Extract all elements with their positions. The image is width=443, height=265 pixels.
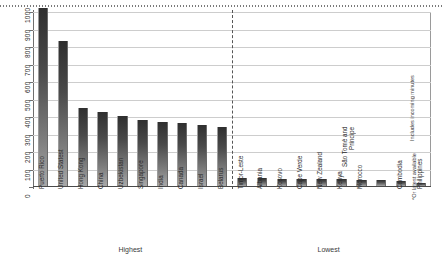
x-axis-category-label: Puerto Rico — [39, 156, 46, 189]
group-label: Lowest — [318, 246, 340, 253]
x-axis-category-label: Israel — [198, 174, 205, 189]
x-axis-category-label: Hong Kong — [79, 157, 86, 189]
x-axis-category-label: United Statest — [59, 149, 66, 189]
top-dotted-rule — [0, 5, 443, 7]
y-axis-tick — [29, 100, 33, 101]
x-axis-category-label: New Zealand — [318, 152, 325, 189]
x-axis-category-label: Philippines — [417, 159, 424, 189]
x-axis-category-label: Cape Verde — [298, 156, 305, 189]
bar-chart-figure: 01002003004005006007008009001000 Puerto … — [0, 0, 443, 265]
y-axis-tick — [29, 187, 33, 188]
y-axis-tick — [29, 12, 33, 13]
x-axis-category-label: Singapore — [138, 160, 145, 189]
y-axis-labels: 01002003004005006007008009001000 — [0, 12, 31, 187]
x-axis-category-label: Kosovo — [278, 168, 285, 189]
y-axis-tick — [29, 47, 33, 48]
x-axis-category-label: China — [99, 173, 106, 189]
x-axis-category-label: Canada — [178, 167, 185, 189]
x-axis-category-label: Cambodia — [397, 160, 404, 189]
chart-annotation: *Or latest available — [411, 140, 417, 200]
x-axis-category-label: India — [158, 175, 165, 189]
y-axis-tick — [29, 152, 33, 153]
x-axis-category-label: Albania — [258, 168, 265, 189]
x-axis-category-label: São Tomé and Príncipe — [342, 127, 384, 189]
y-axis-tick — [29, 65, 33, 66]
chart-annotation: Includes incoming minutes — [409, 55, 415, 141]
x-axis-category-labels: Puerto RicoUnited StatestHong KongChinaU… — [33, 189, 431, 251]
y-axis-tick — [29, 30, 33, 31]
x-axis-category-label: Uzbekistan — [119, 158, 126, 189]
y-axis-tick — [29, 135, 33, 136]
y-axis-tick — [29, 82, 33, 83]
x-axis-category-label: Timor-Leste — [238, 156, 245, 189]
group-divider — [232, 10, 233, 189]
group-label: Highest — [119, 246, 143, 253]
y-axis-tick — [29, 170, 33, 171]
x-axis-category-label: Belarus — [218, 168, 225, 189]
y-axis-tick — [29, 117, 33, 118]
